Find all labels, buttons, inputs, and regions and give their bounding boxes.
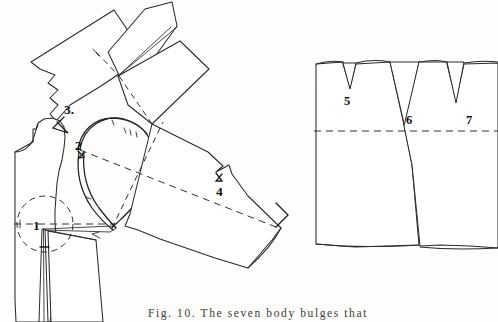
- armhole-notch-3: [136, 132, 137, 137]
- label-5: 5: [344, 94, 350, 108]
- armhole-notch-4: [112, 120, 114, 125]
- right-panel-right: [404, 62, 498, 248]
- label-7: 7: [466, 113, 472, 127]
- armhole-notch-2: [130, 130, 131, 135]
- label-2: 2: [75, 138, 82, 153]
- figure-root: 1 2 3. 4: [0, 0, 498, 322]
- left-diagram-group: 1 2 3. 4: [14, 2, 281, 322]
- label-6: 6: [406, 113, 412, 127]
- pattern-diagram: 1 2 3. 4: [0, 0, 498, 322]
- label-3: 3.: [64, 102, 74, 117]
- figure-caption: Fig. 10. The seven body bulges that: [148, 305, 478, 322]
- label-4: 4: [216, 184, 223, 199]
- right-diagram-group: 5 6 7: [314, 61, 498, 250]
- pivot-arrow-a: [92, 232, 100, 238]
- waist-dart-centerline: [44, 229, 45, 322]
- label-1: 1: [33, 218, 40, 233]
- lower-left-side-panel: [48, 231, 103, 322]
- armhole-scurve-lower2: [84, 152, 116, 228]
- chevron-right-marker: [276, 203, 288, 227]
- armhole-notch-1: [124, 128, 126, 133]
- panel-4-large-piece: [125, 124, 281, 268]
